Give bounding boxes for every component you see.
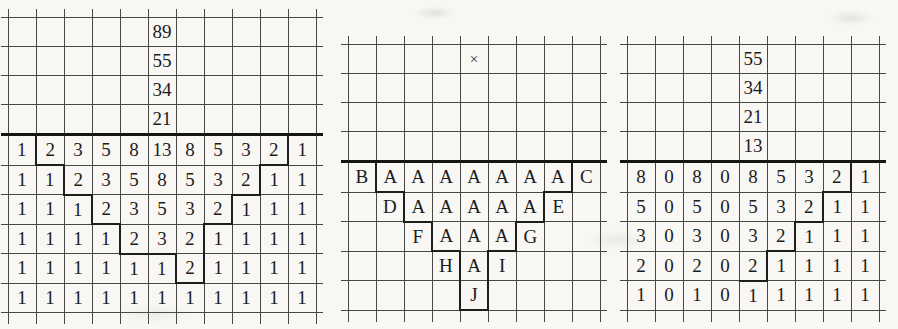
grid-cell: A [432, 192, 460, 222]
scan-smudge [828, 10, 874, 26]
grid-cell: 1 [64, 195, 92, 225]
grid-cell: 1 [767, 281, 795, 311]
grid-cell: 2 [176, 254, 204, 284]
grid-cell: 1 [851, 281, 879, 311]
grid-cell [36, 18, 64, 47]
grid-cell [544, 251, 572, 281]
grid-cell [655, 74, 683, 103]
grid-cell: 5 [204, 135, 232, 166]
grid-cell: 1 [767, 251, 795, 281]
grid-cell [348, 103, 376, 132]
grid-cell: 1 [823, 251, 851, 281]
grid-cell [823, 74, 851, 103]
fibonacci-triangle-grid: 8955342112358138532111235853211111235321… [1, 9, 323, 324]
grid-cell [544, 74, 572, 103]
grid-cell: 2 [627, 251, 655, 281]
grid-cell [432, 132, 460, 162]
grid-cell [8, 18, 36, 47]
grid-cell [204, 47, 232, 76]
grid-cell: 1 [288, 224, 316, 254]
grid-cell: 5 [92, 135, 120, 166]
grid-cell [627, 103, 655, 132]
grid-cell: 1 [232, 283, 260, 313]
grid-cell [795, 103, 823, 132]
grid-cell [348, 222, 376, 252]
grid-cell: 2 [767, 222, 795, 252]
grid-cell [376, 132, 404, 162]
grid-cell: A [516, 192, 544, 222]
grid-cell: 3 [767, 192, 795, 222]
grid-cell [120, 18, 148, 47]
grid-cell: 1 [795, 281, 823, 311]
grid-cell: 2 [823, 162, 851, 193]
grid-cell: 1 [260, 254, 288, 284]
grid-cell [232, 18, 260, 47]
grid-cell: A [460, 192, 488, 222]
grid-cell: 13 [739, 132, 767, 162]
grid-cell [176, 76, 204, 105]
grid-cell [92, 76, 120, 105]
grid-cell [260, 47, 288, 76]
grid-cell: 1 [232, 254, 260, 284]
grid-cell: 1 [120, 254, 148, 284]
grid-cell: 1 [36, 195, 64, 225]
grid-cell: 8 [627, 162, 655, 193]
grid-cell: 2 [204, 195, 232, 225]
grid-cell: 1 [8, 135, 36, 166]
grid-cell: 5 [683, 192, 711, 222]
grid-cell: A [404, 162, 432, 193]
grid-cell [711, 132, 739, 162]
grid-cell [120, 47, 148, 76]
grid-cell [488, 281, 516, 311]
grid-cell [64, 47, 92, 76]
grid-cell: I [488, 251, 516, 281]
grid-cell: 2 [795, 192, 823, 222]
grid-cell [92, 105, 120, 135]
letter-triangle-grid: ×BAAAAAAACDAAAAAEFAAAGHAIJ [341, 36, 607, 322]
grid-cell: 3 [683, 222, 711, 252]
grid-cell [8, 76, 36, 105]
grid-cell: 3 [232, 135, 260, 166]
grid-cell [572, 132, 600, 162]
grid-cell [516, 281, 544, 311]
grid-cell [432, 281, 460, 311]
grid-cell [404, 103, 432, 132]
grid-cell [348, 45, 376, 74]
grid-cell: 1 [64, 224, 92, 254]
grid-cell: 1 [148, 283, 176, 313]
grid-cell [232, 76, 260, 105]
grid-cell: 1 [64, 254, 92, 284]
scan-smudge [415, 6, 455, 20]
grid-cell [376, 281, 404, 311]
grid-cell: 5 [148, 195, 176, 225]
grid-cell: A [516, 162, 544, 193]
grid-cell: 1 [823, 192, 851, 222]
grid-cell [572, 103, 600, 132]
grid-cell [851, 103, 879, 132]
grid-cell: A [432, 222, 460, 252]
grid-cell: 2 [260, 135, 288, 166]
grid-cell [404, 45, 432, 74]
letter-triangle-grid-table: ×BAAAAAAACDAAAAAEFAAAGHAIJ [341, 36, 607, 322]
scanned-figure-page: 8955342112358138532111235853211111235321… [0, 0, 898, 329]
grid-cell [64, 76, 92, 105]
grid-cell: 1 [288, 283, 316, 313]
grid-cell: 1 [823, 222, 851, 252]
grid-cell: 1 [232, 224, 260, 254]
grid-cell: 21 [148, 105, 176, 135]
grid-cell: 2 [232, 165, 260, 195]
grid-cell [8, 105, 36, 135]
grid-cell: 5 [767, 162, 795, 193]
grid-cell: 1 [8, 283, 36, 313]
grid-cell: 8 [683, 162, 711, 193]
grid-cell [572, 192, 600, 222]
grid-cell [376, 103, 404, 132]
grid-cell [432, 74, 460, 103]
grid-cell [627, 74, 655, 103]
grid-cell: 0 [655, 222, 683, 252]
grid-cell: A [460, 251, 488, 281]
grid-cell: 1 [120, 283, 148, 313]
grid-cell [92, 47, 120, 76]
grid-cell [516, 45, 544, 74]
grid-cell: 1 [260, 165, 288, 195]
